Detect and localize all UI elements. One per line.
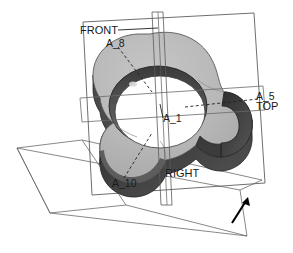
datum-label-front: FRONT [80, 25, 118, 36]
axis-label-a10: A_10 [112, 178, 137, 189]
plane-normal-arrow [232, 197, 250, 223]
axis-label-a1: A_1 [163, 113, 182, 124]
datum-label-right: RIGHT [165, 168, 199, 179]
cad-viewport[interactable]: FRONT A_8 A_5 TOP A_1 RIGHT A_10 [0, 0, 293, 253]
axis-label-a8: A_8 [106, 38, 125, 49]
leader-front [118, 28, 158, 30]
datum-label-top: TOP [256, 101, 278, 112]
cad-scene [0, 0, 293, 253]
